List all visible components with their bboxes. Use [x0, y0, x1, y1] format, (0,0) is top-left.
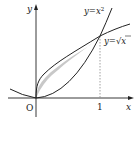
origin-label: O: [26, 103, 33, 113]
x-axis-label: x: [126, 102, 131, 112]
shaded-region: [36, 34, 100, 98]
y-axis-label: y: [26, 4, 33, 14]
x-axis-arrow-icon: [128, 96, 134, 100]
parabola-label: y=x2: [83, 6, 104, 17]
sqrt-label-base: y=: [103, 36, 116, 46]
diagram-canvas: y x O 1 y=x2 y=√x: [0, 0, 140, 150]
sqrt-label: y=√x: [103, 36, 126, 46]
tick-label-1: 1: [97, 102, 103, 112]
parabola-label-base: y=x: [83, 6, 101, 16]
y-axis-arrow-icon: [34, 4, 38, 10]
parabola-label-exponent: 2: [101, 6, 105, 12]
sqrt-label-radicand: x: [121, 36, 126, 46]
curve-parabola: [10, 8, 112, 98]
shaded-region-fill: [36, 36, 100, 98]
